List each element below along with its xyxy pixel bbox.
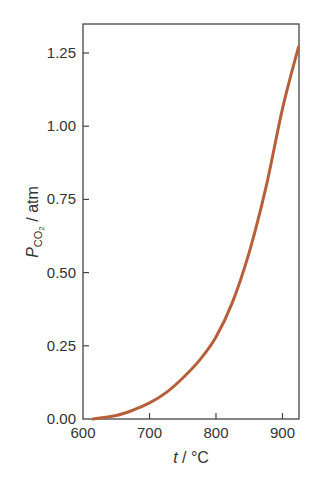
y-tick-label: 1.00 xyxy=(47,117,76,134)
chart: 0.000.250.500.751.001.25 600700800900 t … xyxy=(0,0,323,489)
x-tick-label: 700 xyxy=(137,424,162,441)
x-tick-label: 800 xyxy=(203,424,228,441)
x-axis-label: t / °C xyxy=(173,449,209,466)
plot-frame xyxy=(83,24,299,419)
y-axis-label: PCO2 / atm xyxy=(24,186,46,258)
x-tick-label: 900 xyxy=(270,424,295,441)
x-tick-label: 600 xyxy=(70,424,95,441)
pco2-curve xyxy=(93,47,299,419)
y-tick-label: 0.25 xyxy=(47,337,76,354)
y-tick-label: 1.25 xyxy=(47,44,76,61)
y-tick-label: 0.75 xyxy=(47,190,76,207)
y-tick-label: 0.50 xyxy=(47,264,76,281)
